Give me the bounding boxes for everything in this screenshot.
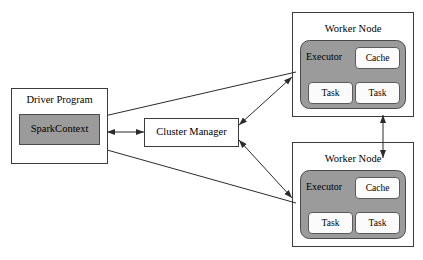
- task-top-1-label: Task: [322, 88, 340, 98]
- connection-cluster-manager-to-worker-top: [239, 77, 292, 125]
- worker-node-top-title: Worker Node: [325, 23, 382, 34]
- cache-top-label: Cache: [366, 53, 390, 63]
- worker-node-bottom-title: Worker Node: [325, 153, 382, 164]
- sparkcontext-label: SparkContext: [31, 123, 89, 134]
- diagram-canvas: Worker Node Executor Cache Task Task Wor…: [0, 0, 423, 260]
- spark-architecture-diagram: Worker Node Executor Cache Task Task Wor…: [0, 0, 423, 260]
- task-bottom-2-label: Task: [369, 218, 387, 228]
- cluster-manager[interactable]: Cluster Manager: [145, 119, 239, 147]
- connection-worker-top-to-sparkcontext: [100, 72, 296, 117]
- executor-bottom-label: Executor: [306, 181, 343, 192]
- task-bottom-1-label: Task: [322, 218, 340, 228]
- connection-worker-bottom-to-sparkcontext: [100, 148, 296, 203]
- cache-bottom-label: Cache: [366, 183, 390, 193]
- executor-top-label: Executor: [306, 51, 343, 62]
- driver-program[interactable]: Driver Program SparkContext: [12, 89, 108, 164]
- task-top-2-label: Task: [369, 88, 387, 98]
- cluster-manager-label: Cluster Manager: [156, 126, 227, 137]
- driver-program-title: Driver Program: [26, 94, 92, 105]
- worker-node-bottom[interactable]: Worker Node Executor Cache Task Task: [293, 143, 414, 247]
- worker-node-top[interactable]: Worker Node Executor Cache Task Task: [293, 13, 414, 117]
